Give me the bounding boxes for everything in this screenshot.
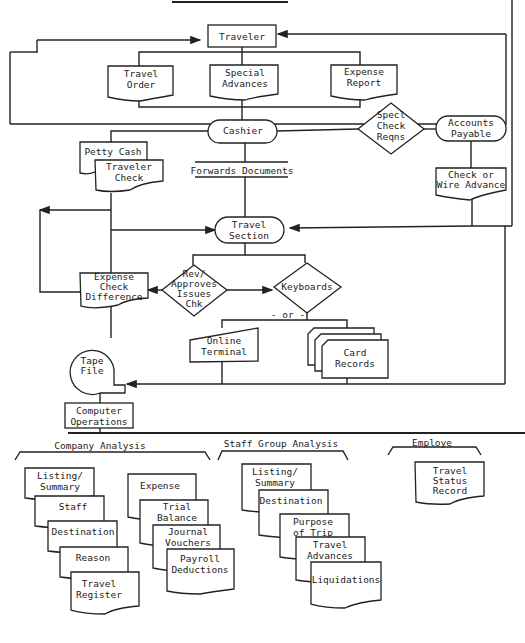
company-analysis-group: Company Analysis xyxy=(15,440,210,460)
tape-file: Tape File xyxy=(70,350,125,394)
travel-order-document: Travel Order xyxy=(108,66,173,101)
svg-text:Specl: Specl xyxy=(377,109,406,120)
svg-text:Traveler: Traveler xyxy=(219,31,265,42)
svg-text:Reqns: Reqns xyxy=(377,131,406,142)
svg-text:Travel: Travel xyxy=(313,539,347,550)
svg-text:Staff Group Analysis: Staff Group Analysis xyxy=(224,438,338,449)
svg-text:File: File xyxy=(81,365,104,376)
company-analysis-right-stack: Expense Trial Balance Journal Vouchers P… xyxy=(128,474,234,594)
check-or-wire-advance-document: Check or Wire Advance xyxy=(436,168,506,200)
svg-text:Listing/: Listing/ xyxy=(252,466,298,477)
svg-text:Travel: Travel xyxy=(232,219,266,230)
svg-text:Company Analysis: Company Analysis xyxy=(54,440,146,451)
svg-text:Destination: Destination xyxy=(260,495,323,506)
svg-text:Traveler: Traveler xyxy=(106,161,152,172)
svg-text:Vouchers: Vouchers xyxy=(165,537,211,548)
svg-text:Purpose: Purpose xyxy=(293,516,333,527)
svg-text:Deductions: Deductions xyxy=(171,564,228,575)
svg-text:Check: Check xyxy=(377,120,406,131)
employe-stack: Travel Status Record xyxy=(415,462,484,504)
svg-text:Expense: Expense xyxy=(140,480,180,491)
svg-text:Special: Special xyxy=(225,67,265,78)
employe-group: Employe xyxy=(388,437,481,455)
svg-text:Card: Card xyxy=(344,347,367,358)
svg-text:Difference: Difference xyxy=(85,291,142,302)
svg-text:Advances: Advances xyxy=(222,78,268,89)
svg-text:Trial: Trial xyxy=(163,501,192,512)
special-advances-document: Special Advances xyxy=(210,65,278,100)
svg-text:Keyboards: Keyboards xyxy=(281,281,332,292)
staff-group-analysis-group: Staff Group Analysis xyxy=(218,438,348,460)
svg-text:Forwards Documents: Forwards Documents xyxy=(191,165,294,176)
svg-text:Advances: Advances xyxy=(307,550,353,561)
svg-text:Online: Online xyxy=(207,335,242,346)
online-terminal-input: Online Terminal xyxy=(190,328,258,362)
svg-text:Check: Check xyxy=(115,172,144,183)
svg-text:Liquidations: Liquidations xyxy=(312,574,381,585)
staff-group-analysis-stack: Listing/ Summary Destination Purpose of … xyxy=(242,464,381,608)
cashier-terminal: Cashier xyxy=(208,120,277,143)
svg-text:Computer: Computer xyxy=(76,405,122,416)
svg-text:Listing/: Listing/ xyxy=(37,470,83,481)
traveler-check-document: Traveler Check xyxy=(95,160,163,192)
svg-text:Terminal: Terminal xyxy=(201,346,247,357)
svg-text:Expense: Expense xyxy=(344,66,384,77)
svg-text:Accounts: Accounts xyxy=(448,117,494,128)
computer-operations-process: Computer Operations xyxy=(65,403,133,428)
svg-text:Travel: Travel xyxy=(124,68,158,79)
svg-text:Balance: Balance xyxy=(157,512,197,523)
svg-text:Payable: Payable xyxy=(451,128,491,139)
travel-section-terminal: Travel Section xyxy=(215,217,284,243)
svg-text:Summary: Summary xyxy=(255,477,295,488)
svg-text:Chk: Chk xyxy=(185,298,202,309)
svg-text:Report: Report xyxy=(347,77,381,88)
svg-text:Wire Advance: Wire Advance xyxy=(437,179,506,190)
svg-text:Travel: Travel xyxy=(82,578,116,589)
svg-text:Reason: Reason xyxy=(76,552,110,563)
svg-text:Section: Section xyxy=(229,230,269,241)
traveler-process: Traveler xyxy=(208,25,276,47)
or-label: - or - xyxy=(271,309,305,320)
svg-text:Petty Cash: Petty Cash xyxy=(84,146,141,157)
flowchart-diagram: Traveler Travel Order Special Advances E… xyxy=(0,0,525,643)
keyboards-decision: Keyboards xyxy=(274,263,341,313)
forwards-documents-store: Forwards Documents xyxy=(191,162,294,177)
card-records-stack: Card Records xyxy=(308,328,388,378)
expense-check-difference-document: Expense Check Difference xyxy=(80,271,148,308)
svg-text:Summary: Summary xyxy=(40,481,80,492)
svg-text:Operations: Operations xyxy=(70,416,127,427)
svg-text:Cashier: Cashier xyxy=(223,125,263,136)
specl-check-reqns-decision: Specl Check Reqns xyxy=(358,103,424,154)
svg-text:Journal: Journal xyxy=(168,526,208,537)
accounts-payable-terminal: Accounts Payable xyxy=(436,116,506,141)
svg-text:Register: Register xyxy=(76,589,122,600)
svg-text:Staff: Staff xyxy=(59,501,88,512)
svg-text:Payroll: Payroll xyxy=(180,553,220,564)
rev-approves-decision: Rev/ Approves Issues Chk xyxy=(162,265,227,316)
svg-text:Records: Records xyxy=(335,358,375,369)
svg-text:Destination: Destination xyxy=(52,526,115,537)
company-analysis-left-stack: Listing/ Summary Staff Destination Reaso… xyxy=(25,468,139,614)
svg-text:Order: Order xyxy=(127,79,156,90)
expense-report-document: Expense Report xyxy=(331,65,397,100)
svg-text:Record: Record xyxy=(433,485,467,496)
